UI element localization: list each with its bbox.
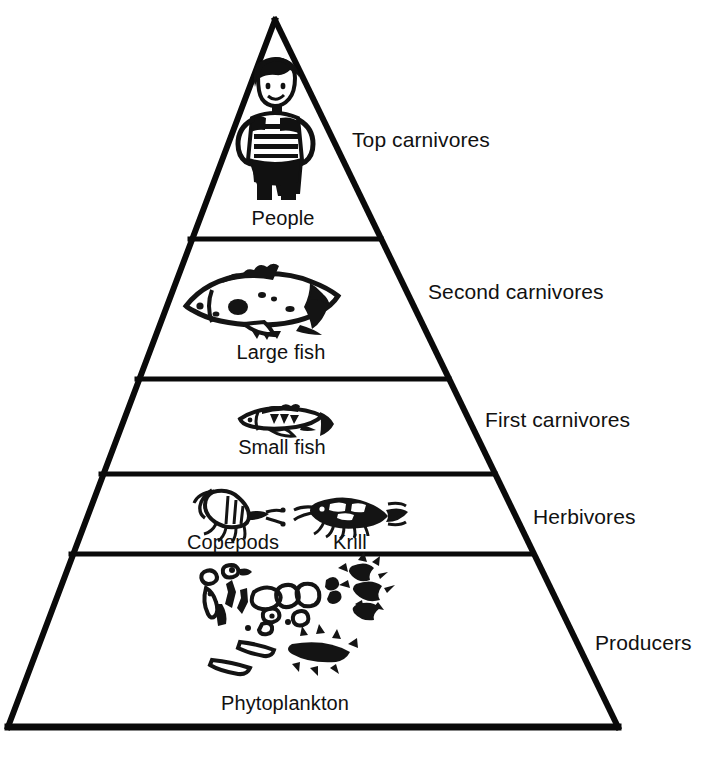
large-fish-icon: [186, 264, 338, 340]
phytoplankton-cluster-icon: [201, 552, 395, 676]
trophic-label-herbivores: Herbivores: [533, 505, 636, 529]
trophic-label-first-carnivores: First carnivores: [485, 408, 630, 432]
tier-organism-label-large-fish: Large fish: [237, 341, 326, 364]
small-fish-icon: [240, 404, 334, 436]
trophic-label-producers: Producers: [595, 631, 692, 655]
trophic-label-second-carnivores: Second carnivores: [428, 280, 604, 304]
tier-organism-label-phytoplankton: Phytoplankton: [221, 692, 349, 715]
pyramid-outline: [8, 20, 618, 727]
tier-organism-label-krill: Krill: [333, 531, 367, 554]
ecological-pyramid-figure: People Large fish Small fish Copepods Kr…: [0, 0, 716, 765]
tier-organism-label-copepods: Copepods: [187, 531, 279, 554]
trophic-label-top-carnivores: Top carnivores: [352, 128, 490, 152]
tier-organism-label-small-fish: Small fish: [238, 436, 326, 459]
tier-organism-label-people: People: [252, 207, 315, 230]
